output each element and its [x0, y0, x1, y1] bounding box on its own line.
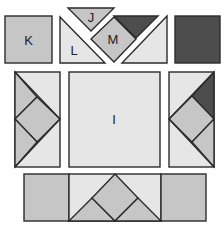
puzzle-diagram: K L J M [0, 0, 224, 235]
middle-row: I [15, 72, 214, 167]
bottom-center-strip [69, 174, 161, 221]
top-row: K L J M [5, 8, 220, 63]
bottom-left-square [24, 174, 69, 221]
piece-k: K [5, 16, 52, 63]
bottom-right-square [161, 174, 206, 221]
piece-i-label: I [112, 112, 116, 127]
piece-l-label: L [70, 43, 77, 58]
piece-dark-square [175, 16, 220, 63]
piece-m-label: M [108, 32, 119, 47]
piece-k-label: K [24, 33, 33, 48]
right-panel [169, 72, 214, 167]
piece-j-label: J [88, 10, 95, 25]
piece-i: I [69, 72, 160, 167]
left-panel [15, 72, 60, 167]
bottom-row [24, 174, 206, 221]
